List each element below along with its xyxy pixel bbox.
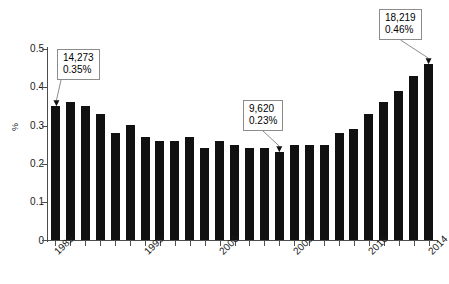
annotation-percent: 0.46% bbox=[385, 24, 416, 36]
x-tick-mark bbox=[354, 241, 355, 246]
x-tick-mark bbox=[205, 241, 206, 246]
annotation-callout-first: 14,273 0.35% bbox=[57, 49, 100, 80]
y-tick-label: 0.4 bbox=[18, 82, 44, 92]
bar bbox=[111, 133, 120, 240]
bar bbox=[51, 106, 60, 240]
annotation-count: 18,219 bbox=[385, 12, 416, 24]
x-tick-mark bbox=[115, 241, 116, 246]
x-tick-mark bbox=[339, 241, 340, 246]
x-tick-mark bbox=[264, 241, 265, 246]
bar bbox=[170, 141, 179, 240]
bar bbox=[200, 148, 209, 240]
annotation-count: 14,273 bbox=[63, 52, 94, 64]
bar bbox=[394, 91, 403, 240]
bar bbox=[424, 64, 433, 240]
bar bbox=[81, 106, 90, 240]
x-tick-mark bbox=[85, 241, 86, 246]
y-tick-label: 0.5 bbox=[18, 44, 44, 54]
y-tick-label: 0.3 bbox=[18, 121, 44, 131]
x-tick-mark bbox=[414, 241, 415, 246]
y-tick-label: 0.1 bbox=[18, 197, 44, 207]
bar bbox=[320, 145, 329, 241]
bar bbox=[66, 102, 75, 240]
y-tick-label: 0 bbox=[18, 236, 44, 246]
y-axis-tick-labels: 0.5 0.4 0.3 0.2 0.1 0 bbox=[18, 0, 44, 284]
bar bbox=[305, 145, 314, 241]
bar bbox=[126, 125, 135, 240]
bar bbox=[349, 129, 358, 240]
plot-area bbox=[48, 49, 436, 240]
bar bbox=[290, 145, 299, 241]
bar bbox=[96, 114, 105, 240]
y-tick-label: 0.2 bbox=[18, 159, 44, 169]
x-tick-mark bbox=[249, 241, 250, 246]
annotation-count: 9,620 bbox=[249, 103, 277, 115]
bar bbox=[230, 145, 239, 241]
bar bbox=[155, 141, 164, 240]
bar bbox=[275, 152, 284, 240]
bar bbox=[260, 148, 269, 240]
x-tick-mark bbox=[279, 241, 280, 246]
annotation-callout-last: 18,219 0.46% bbox=[379, 9, 422, 40]
bar bbox=[215, 141, 224, 240]
annotation-percent: 0.23% bbox=[249, 115, 277, 127]
bar bbox=[379, 102, 388, 240]
bar bbox=[364, 114, 373, 240]
annotation-percent: 0.35% bbox=[63, 64, 94, 76]
bar bbox=[245, 148, 254, 240]
x-tick-mark bbox=[190, 241, 191, 246]
bar bbox=[409, 76, 418, 240]
annotation-callout-middle: 9,620 0.23% bbox=[243, 100, 283, 131]
bar bbox=[141, 137, 150, 240]
bar bbox=[185, 137, 194, 240]
x-tick-mark bbox=[175, 241, 176, 246]
x-tick-mark bbox=[399, 241, 400, 246]
bar bbox=[335, 133, 344, 240]
x-tick-mark bbox=[324, 241, 325, 246]
x-tick-mark bbox=[100, 241, 101, 246]
x-tick-mark bbox=[130, 241, 131, 246]
